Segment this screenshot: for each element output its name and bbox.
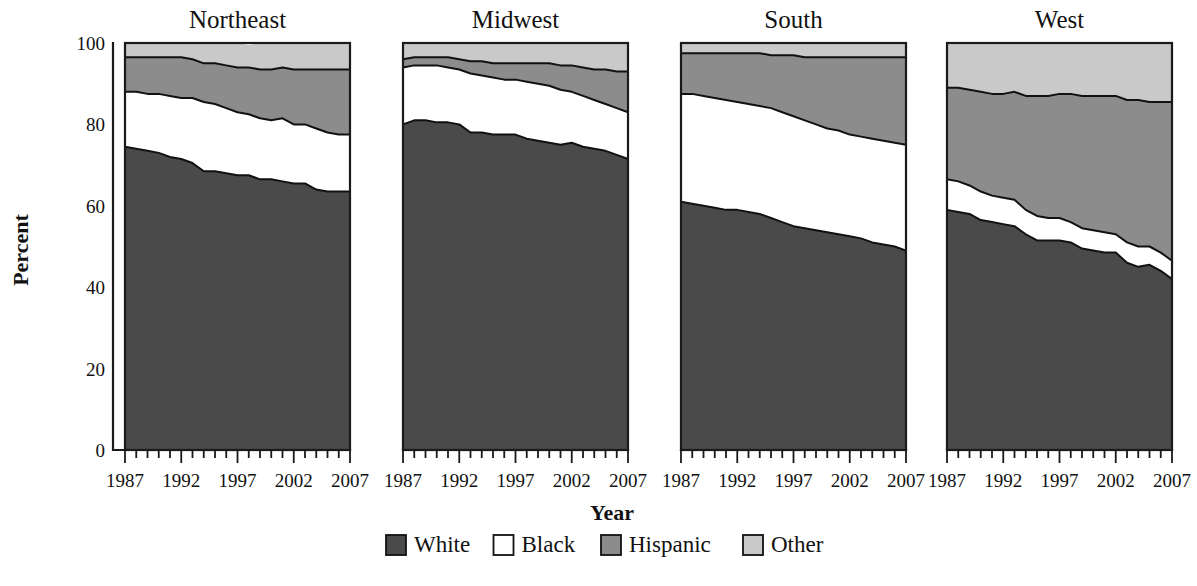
y-tick-label: 60 xyxy=(86,196,105,217)
legend-swatch-black xyxy=(494,535,514,555)
x-tick-label: 1987 xyxy=(106,470,144,491)
x-tick-label: 1987 xyxy=(928,470,966,491)
x-tick-label: 2007 xyxy=(609,470,647,491)
x-tick-label: 1987 xyxy=(662,470,700,491)
y-axis-title-group: Percent xyxy=(8,214,33,286)
area-band-white xyxy=(403,120,628,450)
legend-item-other: Other xyxy=(743,532,824,557)
x-tick-label: 2007 xyxy=(1153,470,1191,491)
x-tick-label: 1997 xyxy=(497,470,535,491)
legend-label: Black xyxy=(522,532,576,557)
x-tick-label: 2002 xyxy=(553,470,591,491)
chart-panel-south: South19871992199720022007 xyxy=(662,6,925,491)
legend-label: Other xyxy=(771,532,824,557)
legend-label: White xyxy=(414,532,470,557)
legend-item-hispanic: Hispanic xyxy=(601,532,711,557)
legend-item-white: White xyxy=(386,532,470,557)
panel-title: Midwest xyxy=(472,6,560,33)
panel-title: Northeast xyxy=(189,6,286,33)
x-tick-label: 1997 xyxy=(219,470,257,491)
x-tick-label: 1992 xyxy=(440,470,478,491)
y-tick-label: 80 xyxy=(86,114,105,135)
panel-title: South xyxy=(764,6,823,33)
chart-panel-west: West19871992199720022007 xyxy=(928,6,1191,491)
x-tick-label: 1987 xyxy=(384,470,422,491)
x-tick-label: 2002 xyxy=(1097,470,1135,491)
area-band-white xyxy=(125,147,350,450)
y-tick-label: 40 xyxy=(86,277,105,298)
y-axis-title: Percent xyxy=(8,214,33,286)
x-axis-title: Year xyxy=(590,500,634,525)
x-tick-label: 1997 xyxy=(775,470,813,491)
x-tick-label: 1992 xyxy=(162,470,200,491)
x-tick-label: 2007 xyxy=(331,470,369,491)
x-tick-label: 2007 xyxy=(887,470,925,491)
x-tick-label: 1992 xyxy=(984,470,1022,491)
y-tick-label: 0 xyxy=(96,440,106,461)
x-tick-label: 1992 xyxy=(718,470,756,491)
stacked-area-chart-figure: Percent 020406080100 Northeast1987199219… xyxy=(0,0,1197,586)
legend-item-black: Black xyxy=(494,532,576,557)
x-tick-label: 1997 xyxy=(1041,470,1079,491)
chart-panel-midwest: Midwest19871992199720022007 xyxy=(384,6,647,491)
legend-swatch-hispanic xyxy=(601,535,621,555)
y-tick-label: 100 xyxy=(77,33,106,54)
panel-group: Northeast19871992199720022007Midwest1987… xyxy=(106,6,1191,491)
panel-title: West xyxy=(1035,6,1084,33)
x-tick-label: 2002 xyxy=(831,470,869,491)
legend-swatch-white xyxy=(386,535,406,555)
x-tick-label: 2002 xyxy=(275,470,313,491)
y-tick-label: 20 xyxy=(86,359,105,380)
legend-label: Hispanic xyxy=(629,532,711,557)
chart-panel-northeast: Northeast19871992199720022007 xyxy=(106,6,369,491)
chart-legend: WhiteBlackHispanicOther xyxy=(386,532,824,557)
legend-swatch-other xyxy=(743,535,763,555)
